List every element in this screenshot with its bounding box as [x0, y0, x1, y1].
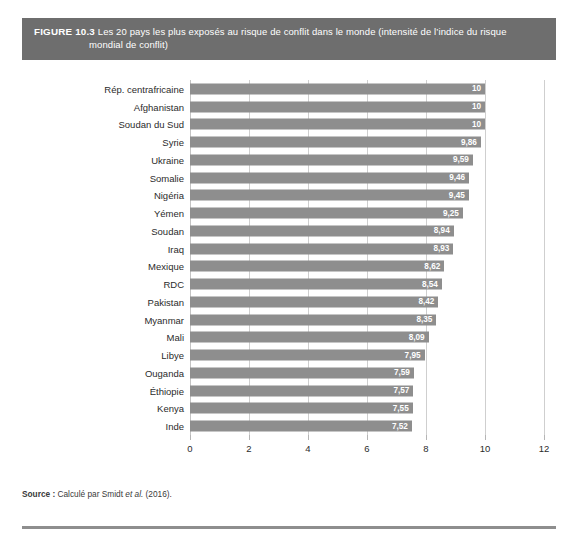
bar: 9,59 [190, 154, 473, 165]
bar-row: Libye7,95 [190, 346, 544, 364]
bar-category-label: Afghanistan [134, 101, 184, 112]
figure-header-band: FIGURE 10.3 Les 20 pays les plus exposés… [22, 18, 556, 60]
bar-value-label: 8,54 [422, 280, 438, 289]
bar-value-label: 9,25 [443, 209, 459, 218]
bar-chart: Rép. centrafricaine10Afghanistan10Soudan… [190, 80, 544, 435]
bar-row: RDC8,54 [190, 275, 544, 293]
bar-category-label: Mexique [148, 261, 184, 272]
x-tick-label: 2 [246, 443, 251, 454]
bar: 8,62 [190, 261, 444, 272]
bar: 8,42 [190, 296, 438, 307]
bar: 7,95 [190, 350, 425, 361]
x-tick-mark [367, 435, 368, 440]
x-tick-label: 8 [423, 443, 428, 454]
x-tick-mark [544, 435, 545, 440]
bar-row: Inde7,52 [190, 417, 544, 435]
chart-plot-area: Rép. centrafricaine10Afghanistan10Soudan… [22, 60, 556, 460]
bar-value-label: 10 [472, 84, 481, 93]
bottom-divider [22, 526, 556, 529]
bar-category-label: RDC [163, 279, 184, 290]
bar-value-label: 9,45 [449, 191, 465, 200]
x-tick-label: 12 [539, 443, 550, 454]
x-tick-mark [485, 435, 486, 440]
x-tick-label: 6 [364, 443, 369, 454]
bar: 7,57 [190, 385, 413, 396]
bar-value-label: 7,59 [394, 368, 410, 377]
bar-rows: Rép. centrafricaine10Afghanistan10Soudan… [190, 80, 544, 435]
bar-value-label: 8,35 [416, 315, 432, 324]
bar-value-label: 7,52 [392, 422, 408, 431]
x-tick-label: 4 [305, 443, 310, 454]
bar: 8,94 [190, 225, 454, 236]
bar-category-label: Libye [161, 350, 184, 361]
x-tick-label: 10 [480, 443, 491, 454]
bar-row: Ukraine9,59 [190, 151, 544, 169]
bar: 9,25 [190, 208, 463, 219]
bar: 7,55 [190, 403, 413, 414]
bar-row: Mali8,09 [190, 329, 544, 347]
bar-category-label: Ouganda [145, 367, 184, 378]
bar-row: Ouganda7,59 [190, 364, 544, 382]
bar-value-label: 7,57 [393, 386, 409, 395]
x-axis: 024681012 [190, 435, 544, 465]
bar-value-label: 8,42 [418, 297, 434, 306]
bar-row: Kenya7,55 [190, 400, 544, 418]
bar: 9,46 [190, 172, 469, 183]
bar: 9,45 [190, 190, 469, 201]
source-citation-etal: et al. [125, 489, 143, 499]
bar: 8,93 [190, 243, 453, 254]
bar-value-label: 10 [472, 102, 481, 111]
bar-category-label: Syrie [162, 137, 184, 148]
gridline-12 [544, 80, 545, 435]
bar-row: Éthiopie7,57 [190, 382, 544, 400]
x-tick-label: 0 [187, 443, 192, 454]
source-text-before: Calculé par Smidt [55, 489, 125, 499]
bar-value-label: 8,09 [409, 333, 425, 342]
x-tick-mark [190, 435, 191, 440]
bar-value-label: 9,86 [461, 138, 477, 147]
bar-category-label: Iraq [168, 243, 184, 254]
bar: 8,54 [190, 279, 442, 290]
bar-category-label: Soudan du Sud [118, 119, 184, 130]
figure-caption-line-1: Les 20 pays les plus exposés au risque d… [98, 26, 507, 37]
bar-row: Somalie9,46 [190, 169, 544, 187]
figure-number: FIGURE 10.3 [34, 26, 95, 37]
bar-row: Nigéria9,45 [190, 187, 544, 205]
figure-card: FIGURE 10.3 Les 20 pays les plus exposés… [22, 18, 556, 460]
bar-value-label: 9,46 [449, 173, 465, 182]
bar: 8,35 [190, 314, 436, 325]
figure-header-text: FIGURE 10.3 Les 20 pays les plus exposés… [34, 25, 544, 51]
bar-row: Pakistan8,42 [190, 293, 544, 311]
x-tick-mark [308, 435, 309, 440]
bar-value-label: 8,94 [434, 226, 450, 235]
bar-row: Iraq8,93 [190, 240, 544, 258]
bar-row: Rép. centrafricaine10 [190, 80, 544, 98]
bar: 10 [190, 119, 485, 130]
bar-category-label: Rép. centrafricaine [104, 83, 184, 94]
bar-row: Afghanistan10 [190, 98, 544, 116]
bar: 7,52 [190, 421, 412, 432]
bar-category-label: Kenya [157, 403, 184, 414]
bar: 7,59 [190, 367, 414, 378]
bar-value-label: 9,59 [453, 155, 469, 164]
bar-row: Soudan du Sud10 [190, 116, 544, 134]
bar-value-label: 10 [472, 120, 481, 129]
bar-category-label: Éthiopie [150, 385, 184, 396]
source-label: Source : [22, 489, 55, 499]
bar-row: Myanmar8,35 [190, 311, 544, 329]
bar-value-label: 8,62 [424, 262, 440, 271]
bar-category-label: Mali [167, 332, 184, 343]
bar-category-label: Inde [166, 421, 185, 432]
bar-category-label: Somalie [150, 172, 184, 183]
bar-row: Yémen9,25 [190, 204, 544, 222]
bar-category-label: Yémen [154, 208, 184, 219]
source-note: Source : Calculé par Smidt et al. (2016)… [22, 489, 172, 499]
bar-category-label: Ukraine [151, 154, 184, 165]
bar-row: Soudan8,94 [190, 222, 544, 240]
x-tick-mark [249, 435, 250, 440]
bar-category-label: Nigéria [154, 190, 184, 201]
bar-row: Syrie9,86 [190, 133, 544, 151]
bar-category-label: Myanmar [144, 314, 184, 325]
bar: 10 [190, 83, 485, 94]
bar-category-label: Soudan [151, 225, 184, 236]
